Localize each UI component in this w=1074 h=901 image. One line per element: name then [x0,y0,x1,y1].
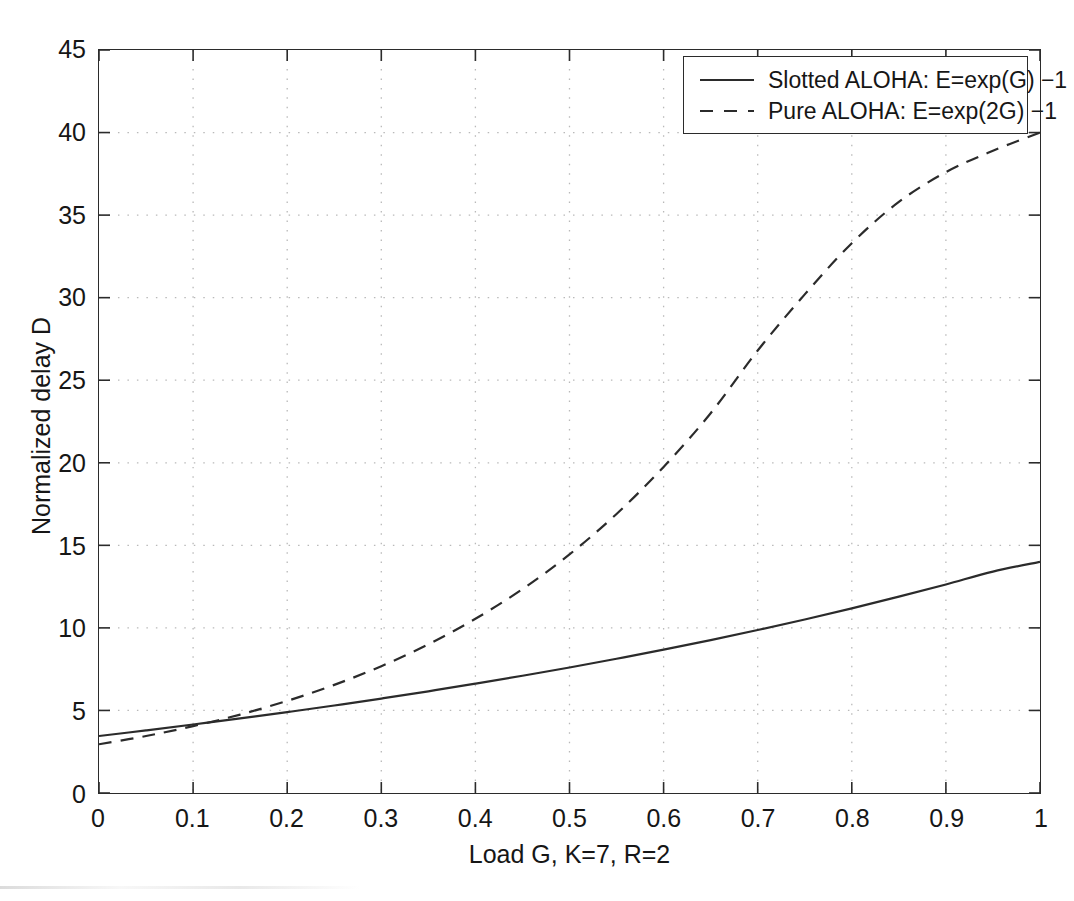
y-tick-label: 25 [58,368,86,393]
x-tick-label: 0.5 [552,806,587,831]
x-tick-label: 0.2 [269,806,304,831]
legend-line-sample-dashed-icon [698,104,756,118]
scan-artifact [0,886,360,889]
plot-canvas [99,50,1040,793]
x-tick-label: 1 [1034,806,1048,831]
x-tick-label: 0.4 [458,806,493,831]
legend-box: Slotted ALOHA: E=exp(G) −1 Pure ALOHA: E… [683,56,1028,134]
x-tick-label: 0.7 [741,806,776,831]
y-tick-label: 30 [58,285,86,310]
grid-lines [99,50,1040,793]
y-tick-label: 40 [58,120,86,145]
legend-entry-pure-aloha: Pure ALOHA: E=exp(2G) −1 [684,95,1027,126]
y-tick-label: 35 [58,203,86,228]
x-tick-label: 0 [91,806,105,831]
y-axis-title: Normalized delay D [27,276,55,576]
y-tick-label: 45 [58,37,86,62]
legend-line-sample-solid-icon [698,73,756,87]
axis-tick-marks [99,50,1040,793]
y-tick-label: 20 [58,451,86,476]
x-tick-label: 0.6 [646,806,681,831]
figure-container: 051015202530354045 00.10.20.30.40.50.60.… [0,0,1074,901]
x-tick-label: 0.8 [835,806,870,831]
legend-label-slotted-aloha: Slotted ALOHA: E=exp(G) −1 [768,68,1067,92]
x-tick-label: 0.1 [175,806,210,831]
plot-area [98,49,1041,794]
data-series-layer [99,133,1040,745]
y-tick-label: 15 [58,534,86,559]
series-line-slotted-aloha [99,562,1040,736]
legend-label-pure-aloha: Pure ALOHA: E=exp(2G) −1 [768,99,1057,123]
y-tick-label: 5 [72,699,86,724]
y-tick-label: 10 [58,616,86,641]
x-tick-label: 0.9 [929,806,964,831]
x-axis-title: Load G, K=7, R=2 [98,840,1041,868]
legend-entry-slotted-aloha: Slotted ALOHA: E=exp(G) −1 [684,64,1027,95]
x-axis-tick-labels: 00.10.20.30.40.50.60.70.80.91 [98,806,1041,836]
x-tick-label: 0.3 [364,806,399,831]
series-line-pure-aloha [99,133,1040,745]
y-tick-label: 0 [72,782,86,807]
